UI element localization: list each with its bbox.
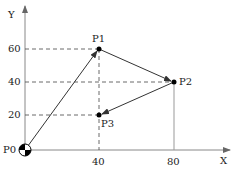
x-tick-40: 40: [92, 157, 105, 167]
y-axis-label: Y: [8, 10, 15, 20]
y-tick-60: 60: [8, 44, 21, 54]
label-p3: P3: [101, 119, 114, 129]
label-p0: P0: [3, 145, 16, 155]
guide-lines: [25, 49, 174, 150]
y-tick-20: 20: [8, 110, 21, 120]
label-p2: P2: [179, 77, 192, 87]
point-p3: [97, 113, 102, 118]
point-p1: [97, 47, 102, 52]
label-p1: P1: [92, 34, 105, 44]
y-tick-40: 40: [8, 77, 21, 87]
toolpath-diagram: [0, 0, 234, 177]
origin-icon: [19, 144, 31, 156]
point-p2: [172, 80, 177, 85]
x-tick-80: 80: [167, 157, 180, 167]
tool-path: [25, 49, 174, 150]
x-axis-label: X: [220, 156, 227, 166]
